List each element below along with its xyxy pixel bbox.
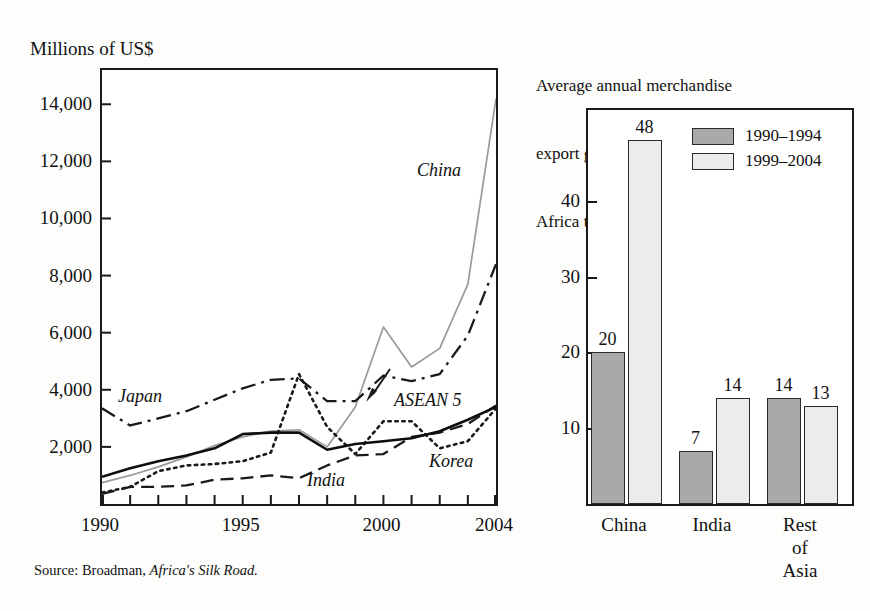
source-note: Source: Broadman, Africa's Silk Road. — [34, 562, 258, 579]
bar-rest-of-asia-1999–2004 — [804, 406, 838, 505]
line-x-tick-label: 2004 — [475, 514, 513, 536]
bar-india-1990–1994 — [679, 451, 713, 504]
bar-chart: Average annual merchandise export growth… — [520, 0, 870, 611]
bar-y-tick-label: 30 — [561, 266, 580, 288]
series-label-asean-5: ASEAN 5 — [394, 390, 462, 411]
line-y-tick-label: 6,000 — [49, 322, 92, 344]
series-label-korea: Korea — [429, 451, 473, 472]
legend-item: 1999–2004 — [692, 151, 822, 171]
line-y-tick-label: 14,000 — [40, 93, 92, 115]
legend-label: 1999–2004 — [745, 151, 822, 171]
series-label-china: China — [417, 160, 461, 181]
bar-category-label-china: China — [601, 514, 646, 537]
source-note-title: Africa's Silk Road. — [150, 562, 258, 578]
bar-value-label: 20 — [599, 329, 617, 350]
line-chart: Millions of US$ 2,0004,0006,0008,00010,0… — [0, 0, 520, 611]
line-series-china — [102, 99, 496, 483]
bar-category-label-rest-of-asia: Rest of Asia — [773, 514, 827, 582]
bar-value-label: 14 — [724, 375, 742, 396]
line-chart-svg — [102, 70, 496, 504]
bar-value-label: 48 — [636, 117, 654, 138]
legend-label: 1990–1994 — [745, 126, 822, 146]
bar-chart-legend: 1990–19941999–2004 — [692, 126, 822, 176]
line-y-tick-label: 2,000 — [49, 436, 92, 458]
bar-chart-category-labels: ChinaIndiaRest of Asia — [586, 512, 854, 576]
bar-chart-y-axis-labels: 10203040 — [536, 108, 580, 506]
figure-page: Millions of US$ 2,0004,0006,0008,00010,0… — [0, 0, 870, 611]
line-chart-y-axis-labels: 2,0004,0006,0008,00010,00012,00014,000 — [10, 68, 92, 506]
line-y-tick-label: 12,000 — [40, 150, 92, 172]
bar-value-label: 7 — [691, 428, 700, 449]
line-chart-x-axis-labels: 1990199520002004 — [100, 512, 498, 546]
legend-swatch — [692, 153, 734, 170]
legend-swatch — [692, 128, 734, 145]
bar-y-tick-mark — [588, 277, 597, 279]
line-chart-axis-title: Millions of US$ — [30, 38, 154, 60]
line-x-tick-label: 2000 — [362, 514, 400, 536]
asean-5-arrow-icon — [366, 369, 390, 402]
bar-china-1999–2004 — [628, 140, 662, 504]
line-x-tick-label: 1995 — [222, 514, 260, 536]
series-label-india: India — [307, 470, 345, 491]
bar-chart-plot-area: 20487141413 1990–19941999–2004 — [586, 108, 854, 506]
line-x-tick-label: 1990 — [81, 514, 119, 536]
bar-y-tick-label: 20 — [561, 341, 580, 363]
bar-chart-title-line-1: Average annual merchandise — [536, 75, 732, 98]
bar-y-tick-label: 10 — [561, 417, 580, 439]
bar-category-label-india: India — [692, 514, 731, 537]
legend-item: 1990–1994 — [692, 126, 822, 146]
line-y-tick-label: 10,000 — [40, 207, 92, 229]
bar-rest-of-asia-1990–1994 — [767, 398, 801, 504]
line-y-tick-label: 8,000 — [49, 265, 92, 287]
source-note-prefix: Source: Broadman, — [34, 562, 150, 578]
bar-value-label: 14 — [775, 375, 793, 396]
bar-india-1999–2004 — [716, 398, 750, 504]
line-y-tick-label: 4,000 — [49, 379, 92, 401]
line-chart-series-group — [102, 99, 496, 494]
series-label-japan: Japan — [118, 386, 162, 407]
bar-y-tick-label: 40 — [561, 190, 580, 212]
bar-china-1990–1994 — [591, 352, 625, 504]
bar-y-tick-mark — [588, 201, 597, 203]
bar-value-label: 13 — [812, 383, 830, 404]
line-chart-plot-area — [100, 68, 498, 506]
